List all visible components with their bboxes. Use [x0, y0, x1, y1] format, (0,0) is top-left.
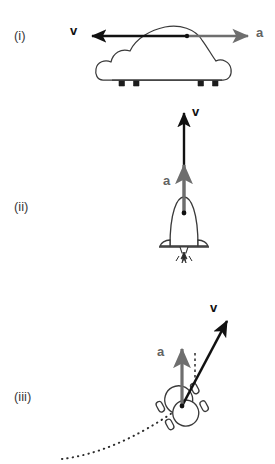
center-of-mass-dot-panel-i [185, 34, 189, 38]
center-of-mass-dot-panel-ii [182, 211, 187, 216]
rocket-fin-right [198, 240, 208, 246]
center-of-mass-dot-panel-iii [180, 404, 185, 409]
panel-iii-group [62, 321, 227, 459]
car-wheel-rear-right [199, 400, 209, 413]
diagram-canvas [0, 0, 275, 464]
car-wheel-front-left [155, 401, 165, 414]
trajectory-dotted-path [62, 406, 182, 459]
rocket-fin-left [160, 240, 170, 246]
rocket-exhaust-flame [176, 247, 192, 263]
car-wheel-rear-left [164, 418, 174, 431]
physics-diagram: (i) (ii) (iii) v a v a v a [0, 0, 275, 464]
panel-i-group [92, 26, 248, 86]
velocity-arrow-panel-iii [182, 321, 227, 406]
panel-ii-group [159, 113, 209, 263]
car-side-body [96, 26, 231, 80]
